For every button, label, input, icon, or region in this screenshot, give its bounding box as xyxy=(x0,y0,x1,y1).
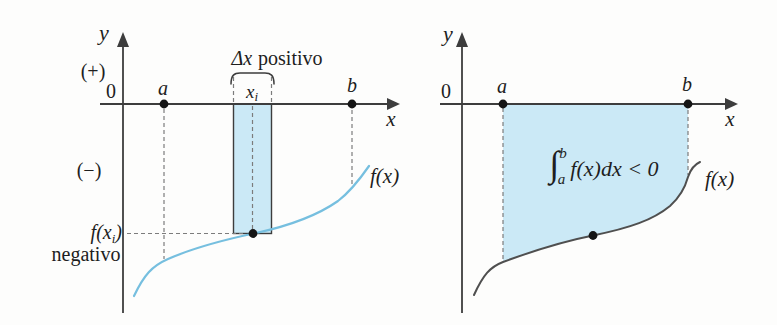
a-label: a xyxy=(158,77,168,99)
point-a-dot xyxy=(499,100,508,109)
point-on-curve-dot xyxy=(589,231,598,240)
plus-sign-label: (+) xyxy=(81,60,106,83)
y-axis-arrow-icon xyxy=(456,32,468,47)
origin-label: 0 xyxy=(106,80,116,102)
point-fxi-dot xyxy=(249,229,258,238)
b-label: b xyxy=(347,74,357,96)
minus-sign-label: (−) xyxy=(77,159,102,182)
delta-x-positive-label: Δxpositivo xyxy=(230,47,322,70)
x-axis-label: x xyxy=(385,107,396,131)
left-graph: y x (+) 0 (−) a b xi Δxpositivo f(xi) ne… xyxy=(52,20,400,313)
y-axis-label: y xyxy=(97,20,109,45)
origin-label: 0 xyxy=(441,80,451,102)
figure-canvas: y x (+) 0 (−) a b xi Δxpositivo f(xi) ne… xyxy=(0,0,777,325)
fx-curve-label: f(x) xyxy=(370,164,399,188)
point-b-dot xyxy=(348,100,357,109)
y-axis-label: y xyxy=(441,21,453,46)
y-axis-arrow-icon xyxy=(117,32,129,47)
fx-curve-label: f(x) xyxy=(705,167,734,191)
negativo-label: negativo xyxy=(52,243,121,266)
x-axis-label: x xyxy=(724,107,735,131)
xi-label: xi xyxy=(245,81,258,104)
b-label: b xyxy=(682,73,692,95)
a-label: a xyxy=(497,75,507,97)
point-b-dot xyxy=(684,100,693,109)
point-a-dot xyxy=(160,100,169,109)
negative-integral-figure: y x (+) 0 (−) a b xi Δxpositivo f(xi) ne… xyxy=(0,0,777,325)
right-graph: y x 0 a b ∫baf(x)dx < 0 f(x) xyxy=(440,21,738,313)
